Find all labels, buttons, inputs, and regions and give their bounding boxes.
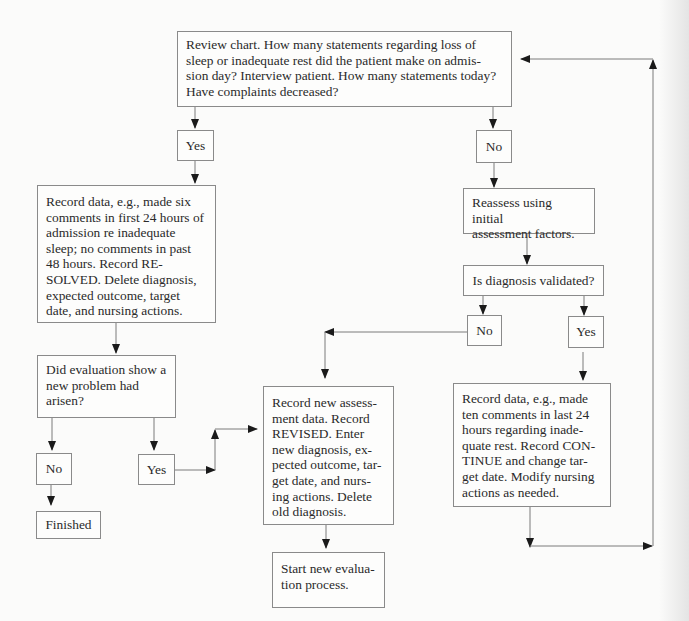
record-revised-box: Record new assess- ment data. Record REV… — [263, 386, 394, 525]
finished-box: Finished — [36, 511, 101, 539]
start-new-evaluation-box: Start new evalua- tion process. — [272, 552, 385, 608]
no-box-complaints-decreased: No — [476, 130, 512, 163]
diagnosis-validated-box: Is diagnosis validated? — [463, 265, 604, 296]
yes-box-new-problem: Yes — [138, 454, 175, 485]
yes-box-complaints-decreased: Yes — [177, 130, 214, 161]
review-line-4: Have complaints decreased? — [186, 84, 503, 100]
record-continue-box: Record data, e.g., made ten comments in … — [453, 383, 611, 507]
review-line-1: Review chart. How many statements regard… — [186, 37, 503, 53]
yes-box-validated: Yes — [568, 316, 604, 348]
review-line-2: sleep or inadequate rest did the patient… — [186, 53, 503, 69]
no-box-new-problem: No — [36, 453, 72, 485]
reassess-box: Reassess using initial assessment factor… — [463, 188, 595, 234]
no-box-validated: No — [467, 315, 502, 346]
page-edge-shadow — [659, 0, 689, 621]
new-problem-box: Did evaluation show a new problem had ar… — [37, 355, 176, 418]
review-chart-box: Review chart. How many statements regard… — [177, 31, 512, 107]
record-resolved-box: Record data, e.g., made six comments in … — [37, 185, 216, 323]
review-line-3: sion day? Interview patient. How many st… — [186, 68, 503, 84]
